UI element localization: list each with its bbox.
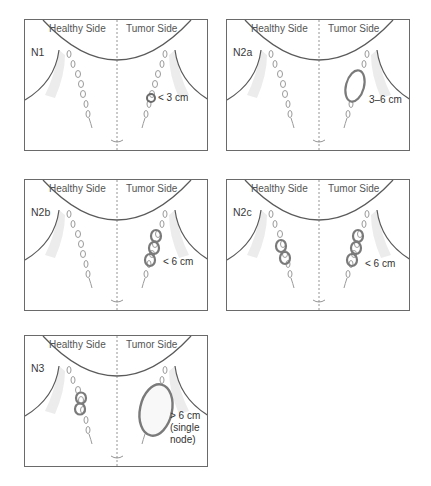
panel-n2c: Healthy Side Tumor Side N2c < 6 cm <box>226 179 410 311</box>
size-line: node) <box>170 434 200 446</box>
tumor-side-label: Tumor Side <box>126 183 177 194</box>
healthy-side-label: Healthy Side <box>49 339 106 350</box>
neck-diagram-icon <box>25 20 208 151</box>
stage-label: N2c <box>233 206 252 218</box>
stage-label: N3 <box>31 362 44 374</box>
panel-n2a: Healthy Side Tumor Side N2a 3–6 cm <box>226 19 410 151</box>
healthy-side-label: Healthy Side <box>251 23 308 34</box>
tumor-side-label: Tumor Side <box>126 339 177 350</box>
panel-n3: Healthy Side Tumor Side N3 > 6 cm (singl… <box>24 335 208 467</box>
panel-n1: Healthy Side Tumor Side N1 < 3 cm <box>24 19 208 151</box>
size-label: > 6 cm (single node) <box>170 410 200 446</box>
healthy-side-label: Healthy Side <box>251 183 308 194</box>
panel-n2b: Healthy Side Tumor Side N2b < 6 cm <box>24 179 208 311</box>
stage-label: N2a <box>233 46 252 58</box>
stage-label: N2b <box>31 206 50 218</box>
neck-diagram-icon <box>227 20 410 151</box>
healthy-side-label: Healthy Side <box>49 183 106 194</box>
size-line: > 6 cm <box>170 410 200 422</box>
neck-diagram-icon <box>25 336 208 467</box>
healthy-side-label: Healthy Side <box>49 23 106 34</box>
size-label: < 3 cm <box>158 92 188 104</box>
tumor-side-label: Tumor Side <box>328 23 379 34</box>
neck-diagram-icon <box>227 180 410 311</box>
size-label: < 6 cm <box>163 256 193 268</box>
size-label: < 6 cm <box>365 258 395 270</box>
size-label: 3–6 cm <box>369 94 402 106</box>
stage-label: N1 <box>31 46 44 58</box>
tumor-side-label: Tumor Side <box>126 23 177 34</box>
size-line: (single <box>170 422 200 434</box>
tumor-side-label: Tumor Side <box>328 183 379 194</box>
neck-diagram-icon <box>25 180 208 311</box>
